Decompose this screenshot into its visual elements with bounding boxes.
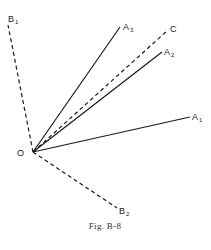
- vector-a3-label: A3: [123, 22, 134, 33]
- vector-a2-line: [33, 52, 162, 152]
- vector-b2-label: B2: [119, 206, 130, 217]
- vector-b1-label: B1: [8, 14, 19, 25]
- origin-label: O: [17, 148, 24, 158]
- vector-c-line: [33, 30, 168, 152]
- vector-a1-label: A1: [192, 112, 203, 123]
- vector-c-label: C: [170, 24, 177, 34]
- vector-labels: B1A3CA2A1B2: [8, 14, 203, 217]
- vector-a2-label: A2: [164, 47, 175, 58]
- vector-lines: [8, 25, 190, 208]
- vector-b2-line: [33, 152, 117, 208]
- vector-b1-line: [8, 25, 33, 152]
- figure-caption: Fig. B-8: [89, 221, 122, 231]
- vector-a3-line: [33, 27, 120, 152]
- vector-diagram: B1A3CA2A1B2 O Fig. B-8: [0, 0, 211, 250]
